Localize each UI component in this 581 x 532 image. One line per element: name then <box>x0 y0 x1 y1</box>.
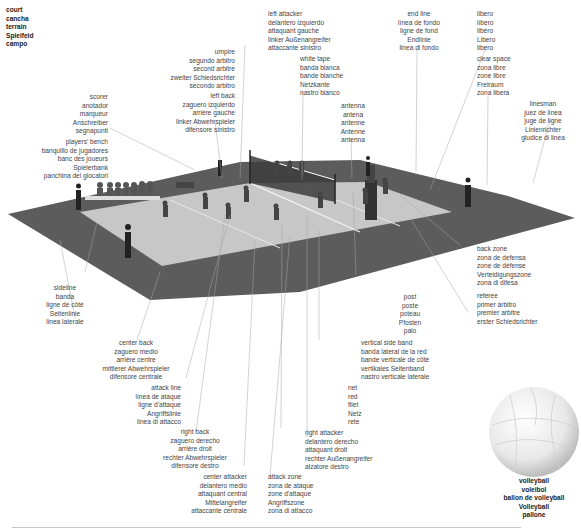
label-left-back: left back zaguero izquierdo arrière gauc… <box>176 92 235 135</box>
volleyball-ball <box>489 387 579 477</box>
label-volleyball: volleyball voleibol ballon de volleyball… <box>490 477 578 520</box>
label-linesman: linesman juez de línea juge de ligne Lin… <box>510 100 576 143</box>
label-back-zone: back zone zona de defensa zone de défens… <box>477 245 531 288</box>
label-scorer: scorer anotador marqueur Anschreiber seg… <box>73 93 108 136</box>
label-left-attacker: left attacker delantero izquierdo attaqu… <box>268 10 331 53</box>
label-players-bench: players' bench banquillo de jugadores ba… <box>42 138 108 181</box>
volleyball-court-diagram: court cancha terrain Spielfeld campo sco… <box>0 0 581 532</box>
label-center-attacker: center attacker delantero medio attaquan… <box>191 473 247 516</box>
label-center-back: center back zaguero medio arrière centre… <box>86 339 186 382</box>
label-net: net red filet Netz rete <box>348 384 362 427</box>
label-right-back: right back zaguero derecho arrière droit… <box>158 428 232 471</box>
label-attack-line: attack line línea de ataque ligne d'atta… <box>136 384 181 427</box>
label-end-line: end line línea de fondo ligne de fond En… <box>390 10 448 53</box>
label-clear-space: clear space zona libre zone libre Freira… <box>477 55 511 98</box>
label-court: court cancha terrain Spielfeld campo <box>6 6 33 49</box>
label-libero: libero líbero libéro Libero libero <box>477 10 495 53</box>
label-attack-zone: attack zone zona de ataque zone d'attaqu… <box>268 473 313 516</box>
bottom-divider <box>12 527 521 528</box>
label-referee: referee primer árbitro premier arbitre e… <box>477 292 537 326</box>
label-vertical-side-band: vertical side band banda lateral de la r… <box>361 339 429 382</box>
label-post: post poste poteau Pfosten palo <box>390 293 430 336</box>
label-umpire: umpire segundo árbitro second arbitre zw… <box>171 48 236 91</box>
label-white-tape: white tape banda blanca bande blanche Ne… <box>300 55 343 98</box>
label-antenna: antenna antena antenne Antenne antenna <box>336 102 370 145</box>
label-right-attacker: right attacker delantero derecho attaqua… <box>305 429 372 472</box>
label-sideline: sideline banda ligne de côté Seitenlinie… <box>30 284 100 327</box>
